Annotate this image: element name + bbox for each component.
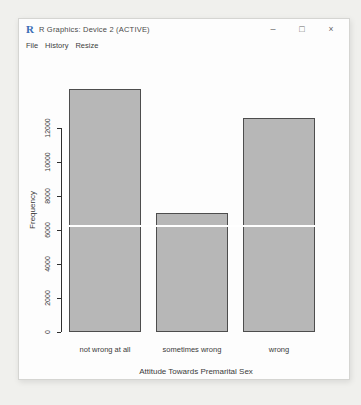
minimize-button[interactable]: – (261, 19, 285, 39)
y-tick (57, 162, 61, 163)
x-axis-title: Attitude Towards Premarital Sex (62, 367, 330, 376)
bar (69, 89, 141, 332)
y-tick (57, 128, 61, 129)
y-tick-label: 0 (43, 312, 53, 352)
menu-item-file[interactable]: File (26, 41, 38, 50)
x-category-label: wrong (229, 345, 329, 354)
menubar: File History Resize (19, 39, 349, 52)
y-tick (57, 264, 61, 265)
bar-overlay-line (69, 225, 315, 227)
y-tick (57, 196, 61, 197)
y-tick-label: 2000 (43, 278, 53, 318)
y-tick-label: 6000 (43, 210, 53, 250)
maximize-button[interactable]: □ (290, 19, 314, 39)
y-tick (57, 230, 61, 231)
r-logo-icon: R (26, 19, 34, 39)
y-tick-label: 10000 (43, 142, 53, 182)
menu-item-history[interactable]: History (45, 41, 68, 50)
bar (156, 213, 228, 332)
y-axis-line (61, 128, 62, 332)
y-tick-label: 12000 (43, 108, 53, 148)
x-category-label: sometimes wrong (142, 345, 242, 354)
window-title: R Graphics: Device 2 (ACTIVE) (39, 25, 256, 34)
titlebar[interactable]: R R Graphics: Device 2 (ACTIVE) – □ × (19, 19, 349, 39)
y-axis-title: Frequency (28, 175, 38, 245)
close-button[interactable]: × (319, 19, 343, 39)
app-window: R R Graphics: Device 2 (ACTIVE) – □ × Fi… (18, 18, 350, 380)
y-tick (57, 332, 61, 333)
page-background: { "window": { "app_icon": "R", "title": … (0, 0, 361, 405)
menu-item-resize[interactable]: Resize (75, 41, 98, 50)
graphics-canvas: Frequency Attitude Towards Premarital Se… (19, 52, 349, 379)
x-category-label: not wrong at all (55, 345, 155, 354)
y-tick-label: 8000 (43, 176, 53, 216)
y-tick-label: 4000 (43, 244, 53, 284)
y-tick (57, 298, 61, 299)
